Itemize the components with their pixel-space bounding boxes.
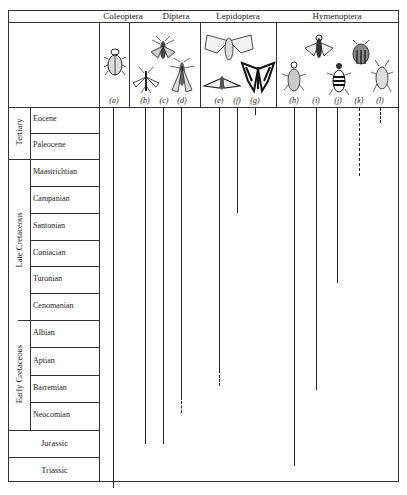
taxon-label-j: (j): [334, 96, 342, 105]
stage-separator: [30, 133, 99, 134]
divider-diptera-lepidoptera: [200, 22, 201, 107]
ant-l-icon: [371, 58, 393, 94]
stage-separator: [30, 293, 99, 294]
order-coleoptera: Coleoptera: [99, 11, 147, 21]
stage-paleocene: Paleocene: [33, 140, 65, 149]
taxon-label-a: (a): [109, 96, 118, 105]
range-line-b: [145, 107, 146, 444]
order-diptera: Diptera: [146, 11, 206, 21]
range-line-k-uncertain: [359, 108, 360, 176]
stage-barremian: Barremian: [33, 383, 67, 392]
stage-santonian: Santonian: [33, 221, 65, 230]
taxon-label-l: (l): [376, 96, 384, 105]
stage-maastrichtian: Maastrichtian: [33, 167, 77, 176]
header-divider: [8, 22, 399, 23]
stage-separator: [30, 320, 99, 321]
moth-e-small-icon: [202, 72, 242, 92]
era-separator: [18, 320, 30, 321]
range-line-l-uncertain: [380, 108, 381, 123]
range-line-d: [181, 107, 182, 400]
divider-coleoptera-diptera: [129, 22, 130, 107]
order-lepidoptera: Lepidoptera: [200, 11, 276, 21]
taxon-label-d: (d): [177, 96, 186, 105]
stage-separator: [30, 159, 99, 160]
stage-separator: [30, 266, 99, 267]
era-column-divider: [30, 107, 31, 430]
stage-eocene: Eocene: [33, 114, 57, 123]
era-early-cretaceous: Early Cretaceous: [14, 324, 24, 424]
range-line-j: [337, 107, 338, 283]
era-tertiary: Tertiary: [14, 106, 24, 158]
taxon-label-c: (c): [160, 96, 169, 105]
period-triassic: Triassic: [10, 465, 99, 475]
taxon-label-f: (f): [233, 96, 241, 105]
divider-label-col: [99, 22, 100, 482]
stage-separator: [30, 240, 99, 241]
stage-coniacian: Coniacian: [33, 248, 65, 257]
taxon-label-h: (h): [289, 96, 298, 105]
stage-separator: [30, 213, 99, 214]
stage-cenomanian: Cenomanian: [33, 301, 73, 310]
fly-d-icon: [168, 58, 196, 94]
fly-b-icon: [131, 67, 161, 93]
stage-separator: [30, 347, 99, 348]
era-separator: [8, 159, 30, 160]
period-jurassic: Jurassic: [10, 438, 99, 448]
images-divider: [8, 107, 399, 108]
era-late-cretaceous: Late Cretaceous: [14, 190, 24, 290]
taxon-label-g: (g): [250, 96, 259, 105]
stage-campanian: Campanian: [33, 194, 69, 203]
taxon-label-e: (e): [215, 96, 224, 105]
stage-aptian: Aptian: [33, 356, 55, 365]
fly-i-icon: [302, 34, 336, 64]
range-line-h: [294, 107, 295, 466]
period-separator: [8, 430, 99, 431]
butterfly-g-icon: [240, 61, 276, 95]
range-line-c: [163, 107, 164, 444]
period-separator: [8, 457, 99, 458]
bee-h-icon: [282, 60, 306, 94]
beetle-icon: [104, 45, 126, 79]
order-hymenoptera: Hymenoptera: [276, 11, 398, 21]
divider-lepidoptera-hymenoptera: [276, 22, 277, 107]
range-line-a: [113, 107, 114, 488]
range-line-d-uncertain: [181, 401, 182, 413]
taxon-label-b: (b): [140, 96, 149, 105]
range-line-e-uncertain: [219, 375, 220, 386]
stage-separator: [30, 186, 99, 187]
range-line-i: [316, 107, 317, 390]
range-line-e: [219, 107, 220, 373]
taxon-label-i: (i): [312, 96, 320, 105]
stage-albian: Albian: [33, 328, 55, 337]
stage-turonian: Turonian: [33, 274, 62, 283]
stage-separator: [30, 402, 99, 403]
range-line-f: [237, 107, 238, 213]
range-line-g: [255, 107, 256, 115]
taxon-label-k: (k): [355, 96, 364, 105]
stage-neocomian: Neocomian: [33, 410, 70, 419]
stage-separator: [30, 375, 99, 376]
